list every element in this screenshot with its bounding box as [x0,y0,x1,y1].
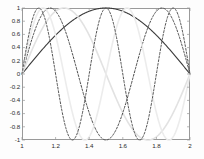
y-tick-label: 1 [0,5,20,11]
y-tick-label: 0.2 [0,58,20,64]
figure-canvas: 10.80.60.40.20-0.2-0.4-0.6-0.8-1 11.21.4… [0,0,204,159]
x-tick-label: 1.6 [111,143,135,149]
x-tick-label: 1.4 [77,143,101,149]
x-tick-label: 1.8 [144,143,168,149]
y-tick-label: 0 [0,71,20,77]
y-tick-label: 0.4 [0,44,20,50]
y-tick-label: -0.8 [0,124,20,130]
y-tick-label: 0.8 [0,18,20,24]
chart-svg [0,0,204,159]
x-axis-tick-labels: 11.21.41.61.82 [0,143,204,155]
y-tick-label: 0.6 [0,31,20,37]
x-tick-label: 1 [10,143,34,149]
curve-layer [22,8,190,140]
y-tick-label: -0.6 [0,110,20,116]
y-tick-label: -0.4 [0,97,20,103]
y-tick-label: -0.2 [0,84,20,90]
y-axis-tick-labels: 10.80.60.40.20-0.2-0.4-0.6-0.8-1 [0,0,20,159]
x-tick-label: 1.2 [44,143,68,149]
x-tick-label: 2 [178,143,202,149]
series-mode-1 [22,8,190,74]
